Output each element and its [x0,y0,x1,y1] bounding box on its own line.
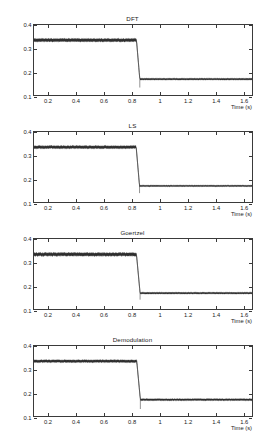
subplot-title: Goertzel [0,229,265,237]
y-tick-label: 0.3 [23,260,31,266]
y-tick-mark [34,418,37,419]
y-tick-label: 0.2 [23,284,31,290]
plot-area: 0.10.20.30.40.20.40.60.811.21.41.6Time (… [33,131,253,203]
y-tick-mark [249,97,252,98]
x-tick-label: 0.6 [100,312,108,318]
data-trace [34,132,252,202]
x-tick-label: 0.4 [72,312,80,318]
data-trace [34,25,252,95]
y-tick-label: 0.3 [23,46,31,52]
x-tick-label: 1 [158,205,161,211]
subplot-dft: DFT0.10.20.30.40.20.40.60.811.21.41.6Tim… [0,14,265,124]
x-axis-label: Time (s) [231,104,252,111]
x-tick-label: 1.2 [184,312,192,318]
x-tick-label: 1.4 [212,98,220,104]
x-tick-label: 1 [158,98,161,104]
y-tick-label: 0.1 [23,415,31,421]
x-tick-label: 1.6 [240,205,248,211]
y-tick-label: 0.4 [23,22,31,28]
y-tick-label: 0.2 [23,70,31,76]
y-tick-mark [34,97,37,98]
y-tick-mark [34,204,37,205]
plot-area: 0.10.20.30.40.20.40.60.811.21.41.6Time (… [33,238,253,310]
y-tick-label: 0.4 [23,129,31,135]
x-tick-label: 1.4 [212,312,220,318]
y-tick-label: 0.3 [23,367,31,373]
x-tick-label: 0.8 [128,419,136,425]
y-tick-label: 0.4 [23,236,31,242]
x-tick-label: 1.2 [184,205,192,211]
x-tick-label: 0.2 [44,312,52,318]
x-tick-label: 1.2 [184,98,192,104]
y-tick-label: 0.1 [23,201,31,207]
x-tick-label: 0.4 [72,205,80,211]
y-tick-mark [249,204,252,205]
x-tick-label: 1 [158,419,161,425]
x-tick-label: 0.8 [128,312,136,318]
figure-canvas: DFT0.10.20.30.40.20.40.60.811.21.41.6Tim… [0,0,265,442]
subplot-ls: LS0.10.20.30.40.20.40.60.811.21.41.6Time… [0,121,265,231]
subplot-demodulation: Demodulation0.10.20.30.40.20.40.60.811.2… [0,335,265,442]
subplot-title: LS [0,122,265,130]
x-tick-label: 1.6 [240,98,248,104]
y-tick-label: 0.2 [23,391,31,397]
y-tick-label: 0.2 [23,177,31,183]
x-tick-label: 0.2 [44,98,52,104]
x-tick-label: 0.2 [44,205,52,211]
x-tick-label: 1.6 [240,419,248,425]
y-tick-mark [34,311,37,312]
plot-area: 0.10.20.30.40.20.40.60.811.21.41.6Time (… [33,345,253,417]
x-tick-label: 1.6 [240,312,248,318]
y-tick-label: 0.1 [23,94,31,100]
x-tick-label: 0.6 [100,98,108,104]
subplot-title: DFT [0,15,265,23]
subplot-goertzel: Goertzel0.10.20.30.40.20.40.60.811.21.41… [0,228,265,338]
x-axis-label: Time (s) [231,211,252,218]
x-tick-label: 0.8 [128,98,136,104]
data-trace [34,346,252,416]
x-tick-label: 0.4 [72,419,80,425]
plot-area: 0.10.20.30.40.20.40.60.811.21.41.6Time (… [33,24,253,96]
x-tick-label: 1.4 [212,419,220,425]
x-tick-label: 0.2 [44,419,52,425]
x-tick-label: 1.4 [212,205,220,211]
data-trace [34,239,252,309]
x-tick-label: 0.8 [128,205,136,211]
x-axis-label: Time (s) [231,425,252,432]
y-tick-label: 0.4 [23,343,31,349]
y-tick-mark [249,418,252,419]
x-tick-label: 0.4 [72,98,80,104]
subplot-title: Demodulation [0,336,265,344]
y-tick-label: 0.1 [23,308,31,314]
y-tick-label: 0.3 [23,153,31,159]
x-axis-label: Time (s) [231,318,252,325]
x-tick-label: 1 [158,312,161,318]
y-tick-mark [249,311,252,312]
x-tick-label: 0.6 [100,419,108,425]
x-tick-label: 1.2 [184,419,192,425]
x-tick-label: 0.6 [100,205,108,211]
